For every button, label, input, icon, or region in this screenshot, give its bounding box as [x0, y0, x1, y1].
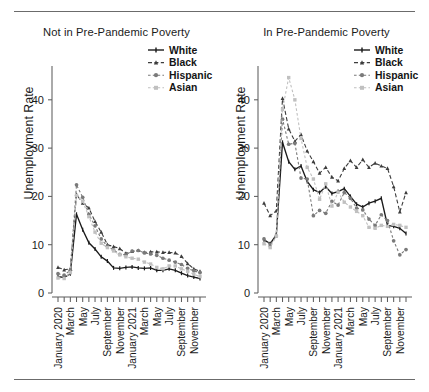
series-line-asian — [58, 195, 200, 278]
y-tick-label: 10 — [238, 239, 250, 251]
x-tick-label: September — [382, 306, 393, 356]
data-point-marker-hispanic — [136, 249, 140, 253]
legend-marker-asian — [154, 86, 158, 90]
data-point-marker-black — [324, 165, 328, 169]
data-point-marker-asian — [293, 98, 296, 101]
x-tick-label: January 2021 — [333, 307, 344, 369]
x-tick-label: January 2021 — [127, 307, 138, 369]
data-point-marker-asian — [343, 201, 346, 204]
data-point-marker-asian — [373, 227, 376, 230]
data-point-marker-black — [112, 245, 116, 249]
data-point-marker-hispanic — [167, 258, 171, 262]
data-point-marker-black — [262, 201, 266, 205]
y-tick-label: 40 — [32, 94, 44, 106]
x-tick-label: September — [176, 306, 187, 356]
y-tick-label: 20 — [238, 190, 250, 202]
legend-label-asian: Asian — [375, 82, 403, 93]
data-point-marker-black — [342, 166, 346, 170]
data-point-marker-asian — [330, 204, 333, 207]
data-point-marker-black — [56, 265, 60, 269]
data-point-marker-asian — [137, 257, 140, 260]
figure-container: Not in Pre-Pandemic Poverty Unemployment… — [0, 0, 429, 392]
data-point-marker-asian — [324, 182, 327, 185]
bottom-divider-rule — [14, 379, 415, 380]
data-point-marker-asian — [130, 257, 133, 260]
x-tick-label: November — [115, 306, 126, 354]
data-point-marker-asian — [161, 267, 164, 270]
data-point-marker-hispanic — [262, 237, 266, 241]
x-tick-label: January 2020 — [53, 307, 64, 369]
data-point-marker-asian — [275, 234, 278, 237]
data-point-marker-asian — [349, 205, 352, 208]
data-point-marker-hispanic — [342, 191, 346, 195]
x-tick-label: May — [78, 306, 89, 326]
data-point-marker-hispanic — [361, 208, 365, 212]
data-point-marker-hispanic — [305, 177, 309, 181]
data-point-marker-hispanic — [99, 237, 103, 241]
data-point-marker-asian — [174, 264, 177, 267]
series-line-black — [264, 98, 406, 215]
data-point-marker-hispanic — [93, 224, 97, 228]
x-tick-label: January 2020 — [259, 307, 270, 369]
data-point-marker-asian — [192, 272, 195, 275]
data-point-marker-asian — [87, 215, 90, 218]
data-point-marker-hispanic — [398, 253, 402, 257]
data-point-marker-black — [311, 160, 315, 164]
data-point-marker-asian — [392, 223, 395, 226]
data-point-marker-black — [386, 166, 390, 170]
data-point-marker-asian — [93, 230, 96, 233]
data-point-marker-asian — [62, 277, 65, 280]
data-point-marker-asian — [361, 214, 364, 217]
data-point-marker-hispanic — [62, 273, 66, 277]
data-point-marker-asian — [262, 242, 265, 245]
x-tick-label: September — [308, 306, 319, 356]
x-tick-label: September — [102, 306, 113, 356]
series-line-hispanic — [264, 119, 406, 255]
series-line-white — [264, 142, 406, 243]
data-point-marker-hispanic — [75, 183, 79, 187]
y-tick-label: 0 — [244, 287, 250, 299]
data-point-marker-asian — [106, 246, 109, 249]
legend-label-hispanic: Hispanic — [375, 70, 419, 81]
data-point-marker-hispanic — [287, 142, 291, 146]
x-tick-label: July — [296, 306, 307, 325]
legend-label-white: White — [169, 45, 198, 56]
data-point-marker-black — [404, 190, 408, 194]
data-point-marker-black — [349, 159, 353, 163]
data-point-marker-asian — [69, 271, 72, 274]
series-line-asian — [264, 78, 406, 248]
data-point-marker-hispanic — [293, 141, 297, 145]
data-point-marker-hispanic — [56, 272, 60, 276]
data-point-marker-asian — [355, 210, 358, 213]
data-point-marker-hispanic — [180, 263, 184, 267]
data-point-marker-asian — [143, 260, 146, 263]
y-tick-label: 20 — [32, 190, 44, 202]
legend-label-asian: Asian — [169, 82, 197, 93]
data-point-marker-asian — [180, 267, 183, 270]
data-point-marker-asian — [56, 276, 59, 279]
data-point-marker-asian — [149, 262, 152, 265]
data-point-marker-hispanic — [161, 256, 165, 260]
data-point-marker-hispanic — [324, 211, 328, 215]
data-point-marker-black — [173, 251, 177, 255]
x-tick-label: July — [164, 306, 175, 325]
data-point-marker-hispanic — [281, 117, 285, 121]
data-point-marker-asian — [299, 137, 302, 140]
x-tick-label: March — [139, 307, 150, 335]
plot-area: 010203040January 2020MarchMayJulySeptemb… — [0, 18, 215, 374]
data-point-marker-asian — [386, 225, 389, 228]
data-point-marker-hispanic — [81, 196, 85, 200]
data-point-marker-asian — [155, 266, 158, 269]
data-point-marker-hispanic — [386, 219, 390, 223]
x-tick-label: July — [90, 306, 101, 325]
data-point-marker-asian — [112, 249, 115, 252]
y-tick-label: 40 — [238, 94, 250, 106]
data-point-marker-hispanic — [404, 248, 408, 252]
x-tick-label: March — [65, 307, 76, 335]
legend-label-hispanic: Hispanic — [169, 70, 213, 81]
data-point-marker-asian — [124, 255, 127, 258]
series-line-white — [58, 214, 200, 278]
x-tick-label: March — [271, 307, 282, 335]
chart-panel-not-in-poverty: Not in Pre-Pandemic Poverty Unemployment… — [0, 18, 215, 374]
data-point-marker-asian — [306, 166, 309, 169]
